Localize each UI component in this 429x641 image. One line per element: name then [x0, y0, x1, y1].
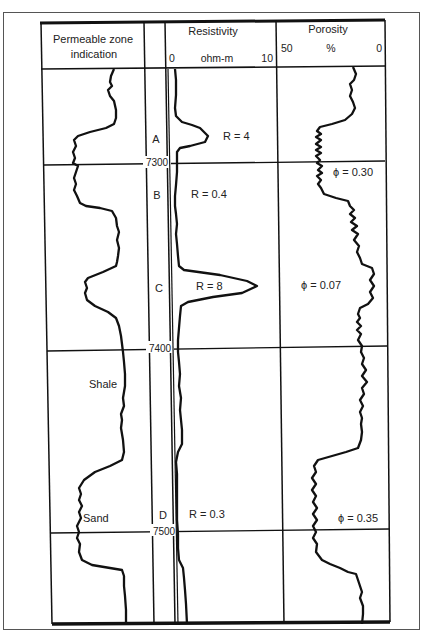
zone-label-c: C — [155, 282, 163, 294]
well-log-diagram: Permeable zone indication Resistivity 0 … — [0, 0, 429, 641]
depth-marker-7300: 7300 — [146, 157, 169, 168]
depth-line-7500 — [51, 529, 389, 533]
resistivity-scale-max: 10 — [261, 52, 273, 64]
depth-line-7400 — [47, 346, 387, 351]
porosity-scale-min: 50 — [281, 42, 293, 54]
track-border-right — [385, 20, 390, 622]
porosity-label-030: ϕ = 0.30 — [333, 166, 373, 178]
resistivity-curve — [175, 69, 257, 624]
porosity-label-007: ϕ = 0.07 — [301, 279, 341, 291]
bottom-border — [52, 622, 390, 624]
zone-label-a: A — [152, 133, 160, 145]
resistivity-label-c: R = 8 — [196, 280, 223, 292]
porosity-label-035: ϕ = 0.35 — [338, 512, 378, 524]
zone-label-b: B — [153, 189, 160, 201]
resistivity-scale-min: 0 — [169, 52, 175, 64]
resistivity-scale-unit: ohm-m — [201, 52, 234, 64]
porosity-curve — [312, 67, 374, 624]
porosity-scale-unit: % — [326, 42, 335, 54]
zone-label-d: D — [159, 509, 167, 521]
resistivity-label-a: R = 4 — [223, 130, 250, 142]
header-separator — [41, 66, 385, 69]
permeable-zone-curve — [73, 69, 126, 624]
porosity-scale-max: 0 — [376, 42, 382, 54]
depth-line-7300 — [44, 161, 385, 165]
depth-marker-7400: 7400 — [149, 343, 172, 354]
track-border-left — [41, 22, 52, 624]
lithology-label-shale: Shale — [89, 378, 117, 390]
lithology-label-sand: Sand — [83, 512, 109, 524]
resistivity-label-d: R = 0.3 — [189, 508, 225, 520]
depth-marker-7500: 7500 — [153, 526, 176, 537]
permeable-header-line2: indication — [71, 48, 117, 60]
resistivity-label-b: R = 0.4 — [191, 188, 227, 200]
permeable-header-line1: Permeable zone — [53, 33, 133, 45]
resistivity-header: Resistivity — [188, 25, 238, 37]
porosity-header: Porosity — [308, 23, 348, 35]
track-border-porosity-left — [276, 20, 284, 624]
